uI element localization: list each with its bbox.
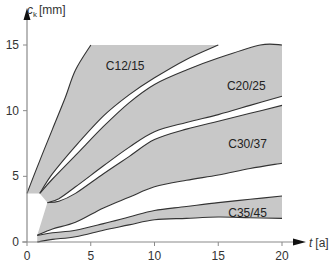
band-label: C35/45 [228, 206, 267, 220]
band-label: C12/15 [106, 59, 145, 73]
x-tick-label: 0 [24, 249, 31, 263]
y-tick-label: 10 [6, 104, 20, 118]
y-tick-label: 5 [12, 169, 19, 183]
y-tick-label: 15 [6, 38, 20, 52]
x-tick-label: 5 [87, 249, 94, 263]
carbonation-depth-chart: 05101520051015 C12/15C20/25C30/37C35/45 … [0, 0, 331, 269]
y-axis-title: ck[mm] [27, 3, 66, 19]
x-axis-title: t[a] [309, 236, 329, 250]
x-tick-label: 15 [212, 249, 226, 263]
y-tick-label: 0 [12, 235, 19, 249]
band-label: C20/25 [227, 79, 266, 93]
x-axis-arrow-icon [293, 239, 306, 246]
band-label: C30/37 [228, 137, 267, 151]
x-tick-label: 20 [275, 249, 289, 263]
x-tick-label: 10 [148, 249, 162, 263]
